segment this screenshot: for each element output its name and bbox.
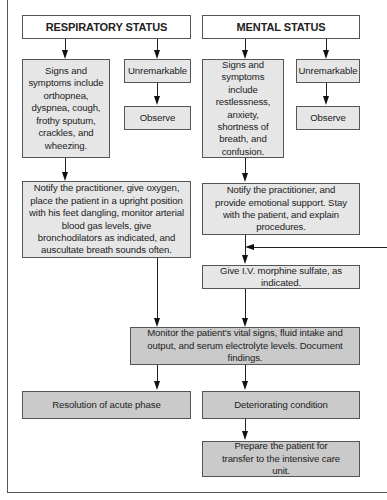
respiratory-notify-box: Notify the practitioner, give oxygen, pl…	[22, 181, 191, 258]
arrow-down-icon	[242, 381, 248, 390]
mental-notify-box: Notify the practitioner, and provide emo…	[202, 183, 360, 235]
arrow-down-icon	[323, 50, 329, 59]
respiratory-signs-box: Signs and symptoms include orthopnea, dy…	[22, 59, 110, 158]
connector-line	[245, 289, 246, 320]
feedback-line	[252, 247, 387, 248]
respiratory-unremarkable-box: Unremarkable	[124, 59, 191, 83]
arrow-down-icon	[242, 431, 248, 440]
frame-bottom-border	[7, 492, 387, 493]
morphine-box: Give I.V. morphine sulfate, as indicated…	[202, 265, 360, 289]
mental-observe-box: Observe	[296, 106, 360, 130]
resolution-box: Resolution of acute phase	[22, 391, 191, 419]
connector-line	[157, 258, 158, 320]
arrow-down-icon	[323, 96, 329, 105]
connector-line	[245, 235, 246, 257]
arrow-left-icon	[245, 244, 254, 250]
mental-signs-box: Signs and symptoms include restlessness,…	[202, 59, 284, 158]
arrow-down-icon	[62, 50, 68, 59]
arrow-down-icon	[242, 255, 248, 264]
arrow-down-icon	[242, 50, 248, 59]
mental-status-header: MENTAL STATUS	[202, 15, 360, 39]
arrow-down-icon	[154, 381, 160, 390]
arrow-down-icon	[154, 318, 160, 327]
mental-unremarkable-box: Unremarkable	[296, 59, 360, 83]
arrow-down-icon	[242, 318, 248, 327]
deteriorating-box: Deteriorating condition	[202, 391, 360, 419]
arrow-down-icon	[154, 96, 160, 105]
respiratory-observe-box: Observe	[124, 106, 191, 130]
arrow-down-icon	[62, 172, 68, 181]
monitor-box: Monitor the patient's vital signs, fluid…	[130, 327, 360, 365]
respiratory-status-header: RESPIRATORY STATUS	[22, 15, 191, 39]
prepare-transfer-box: Prepare the patient for transfer to the …	[202, 441, 360, 477]
arrow-down-icon	[242, 173, 248, 182]
arrow-down-icon	[154, 50, 160, 59]
frame-left-border	[7, 0, 8, 492]
